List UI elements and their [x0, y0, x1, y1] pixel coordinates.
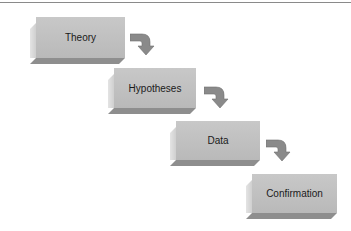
step-confirmation: Confirmation: [246, 174, 337, 219]
step-theory: Theory: [30, 17, 125, 64]
curved-arrow-down-icon: [266, 138, 292, 162]
block-face: Confirmation: [252, 174, 337, 213]
block-face: Data: [176, 121, 260, 160]
block-bottom-bevel: [30, 58, 125, 64]
step-label: Hypotheses: [129, 83, 182, 94]
block-bottom-bevel: [170, 160, 260, 166]
block-bottom-bevel: [108, 108, 196, 114]
block-bottom-bevel: [246, 213, 337, 219]
step-label: Data: [207, 135, 228, 146]
curved-arrow-down-icon: [130, 32, 156, 56]
top-divider: [0, 2, 351, 3]
curved-arrow-down-icon: [204, 85, 230, 109]
block-face: Hypotheses: [114, 68, 196, 108]
step-data: Data: [170, 121, 260, 166]
step-hypotheses: Hypotheses: [108, 68, 196, 114]
step-label: Theory: [65, 32, 96, 43]
block-face: Theory: [36, 17, 125, 58]
step-label: Confirmation: [266, 188, 323, 199]
